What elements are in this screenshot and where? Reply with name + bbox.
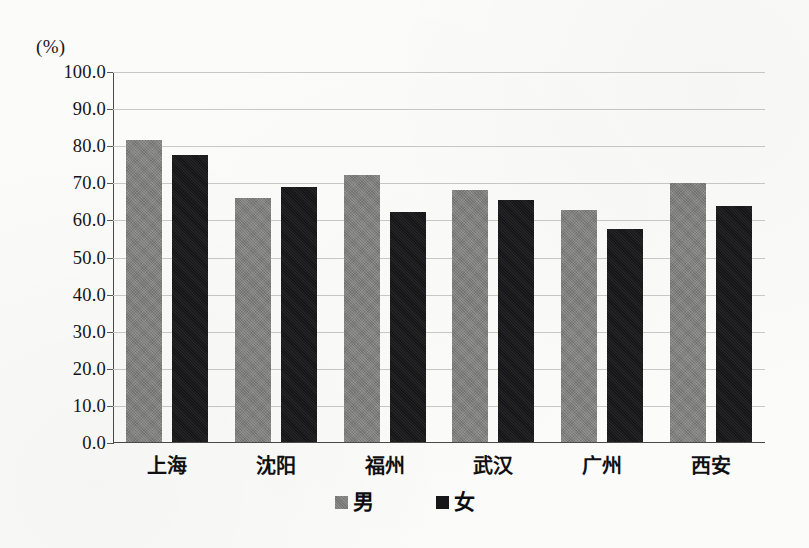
x-tick-label: 福州 [330,450,439,479]
bar-male[interactable] [561,210,597,443]
x-tick-label: 武汉 [439,450,548,479]
bar-group [344,72,426,443]
gridline [113,295,765,296]
gridline [113,406,765,407]
plot-area [113,72,765,443]
y-tick-label: 50.0 [73,247,106,268]
bar-chart-figure: (%) 100.090.080.070.060.050.040.030.020.… [0,0,809,548]
bar-female[interactable] [172,155,208,443]
bar-female[interactable] [607,229,643,443]
y-tick-mark [107,72,113,73]
x-tick-label: 沈阳 [222,450,331,479]
legend-item[interactable]: 女 [436,492,475,513]
legend-label: 男 [353,492,374,513]
bar-female[interactable] [498,200,534,443]
gridline [113,146,765,147]
legend-label: 女 [454,492,475,513]
y-tick-mark [107,220,113,221]
y-tick-label: 70.0 [73,173,106,194]
x-tick-label: 西安 [656,450,765,479]
bar-group [452,72,534,443]
legend-swatch-female [436,496,449,509]
y-tick-label: 40.0 [73,284,106,305]
gridline [113,258,765,259]
gridline [113,332,765,333]
gridline [113,183,765,184]
bar-group [235,72,317,443]
y-tick-mark [107,109,113,110]
legend-item[interactable]: 男 [335,492,374,513]
gridline [113,220,765,221]
y-tick-label: 80.0 [73,136,106,157]
y-tick-label: 20.0 [73,358,106,379]
y-tick-label: 90.0 [73,99,106,120]
bar-group [126,72,208,443]
x-axis-tick-labels: 上海沈阳福州武汉广州西安 [113,450,765,484]
y-tick-label: 60.0 [73,210,106,231]
gridline [113,109,765,110]
y-tick-mark [107,258,113,259]
y-tick-mark [107,369,113,370]
y-tick-label: 100.0 [63,62,106,83]
bar-group [561,72,643,443]
bar-female[interactable] [390,212,426,443]
y-tick-mark [107,183,113,184]
bar-male[interactable] [344,175,380,443]
y-tick-label: 30.0 [73,321,106,342]
y-tick-mark [107,146,113,147]
y-tick-mark [107,332,113,333]
y-tick-mark [107,406,113,407]
y-tick-label: 10.0 [73,395,106,416]
bar-group [670,72,752,443]
y-tick-mark [107,295,113,296]
y-axis-tick-labels: 100.090.080.070.060.050.040.030.020.010.… [28,72,106,443]
bar-male[interactable] [235,198,271,443]
y-tick-mark [107,443,113,444]
bar-male[interactable] [126,140,162,443]
x-axis-baseline [113,442,765,443]
gridline [113,72,765,73]
y-tick-label: 0.0 [82,433,106,454]
bar-male[interactable] [452,190,488,443]
chart-legend: 男女 [0,492,809,513]
bar-female[interactable] [716,206,752,443]
bar-female[interactable] [281,187,317,443]
legend-swatch-male [335,496,348,509]
x-tick-label: 广州 [548,450,657,479]
bar-male[interactable] [670,183,706,443]
x-tick-label: 上海 [113,450,222,479]
gridline [113,369,765,370]
y-axis-unit-label: (%) [36,36,65,58]
